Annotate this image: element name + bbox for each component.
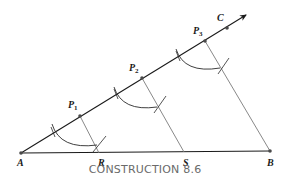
segment-ab bbox=[21, 151, 270, 153]
arc-1 bbox=[52, 124, 97, 146]
arc-3 bbox=[176, 49, 220, 69]
line-p3-b bbox=[205, 41, 270, 151]
label-p1: P1 bbox=[68, 100, 78, 112]
point-c bbox=[225, 26, 229, 30]
label-c: C bbox=[217, 13, 224, 23]
point-p3 bbox=[203, 39, 207, 43]
point-p1 bbox=[78, 114, 82, 118]
ray-ac bbox=[21, 15, 246, 153]
label-p3: P3 bbox=[193, 26, 203, 38]
figure-caption: CONSTRUCTION 8.6 bbox=[0, 163, 290, 176]
line-p1-r bbox=[80, 116, 99, 153]
arc-2 bbox=[114, 87, 157, 108]
label-p2: P2 bbox=[129, 63, 139, 75]
point-p2 bbox=[140, 76, 144, 80]
line-p2-s bbox=[142, 78, 184, 152]
point-a bbox=[19, 151, 23, 155]
tick-cross-1 bbox=[93, 136, 106, 152]
point-b bbox=[268, 149, 272, 153]
